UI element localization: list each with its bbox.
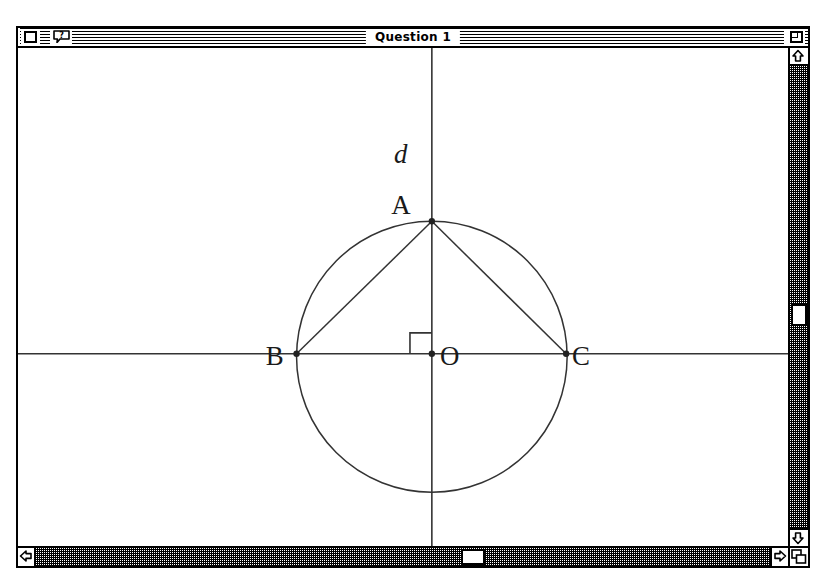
label-a: A <box>391 190 411 220</box>
scroll-up-arrow-icon[interactable] <box>790 48 808 66</box>
horizontal-scrollbar[interactable] <box>18 546 788 566</box>
window-question-1: ? Question 1 d A B <box>16 26 810 568</box>
svg-text:?: ? <box>59 31 64 40</box>
scroll-down-arrow-icon[interactable] <box>790 528 808 546</box>
segment-ac <box>432 221 566 353</box>
horizontal-scroll-track[interactable] <box>36 548 770 566</box>
label-o: O <box>440 341 459 371</box>
segment-ab <box>297 221 432 353</box>
window-titlebar[interactable]: ? Question 1 <box>18 28 808 48</box>
geometry-figure: d A B C O <box>18 48 788 546</box>
point-b-dot <box>293 351 299 357</box>
right-angle-mark <box>410 333 432 354</box>
vertical-scrollbar[interactable] <box>788 48 808 546</box>
vertical-scroll-thumb[interactable] <box>791 304 807 326</box>
point-c-dot <box>563 351 569 357</box>
scroll-left-arrow-icon[interactable] <box>18 548 36 566</box>
scroll-right-arrow-icon[interactable] <box>770 548 788 566</box>
window-title: Question 1 <box>366 29 460 45</box>
label-d: d <box>394 139 408 169</box>
document-canvas[interactable]: d A B C O <box>18 48 788 546</box>
horizontal-scroll-thumb[interactable] <box>461 549 485 565</box>
vertical-scroll-track[interactable] <box>790 66 808 528</box>
point-a-dot <box>429 218 435 224</box>
grow-box-icon[interactable] <box>788 546 808 566</box>
point-o-dot <box>429 351 435 357</box>
close-box[interactable] <box>24 31 37 43</box>
label-c: C <box>572 341 590 371</box>
help-balloon-icon[interactable]: ? <box>53 30 70 43</box>
zoom-box[interactable] <box>790 31 803 43</box>
label-b: B <box>266 341 284 371</box>
